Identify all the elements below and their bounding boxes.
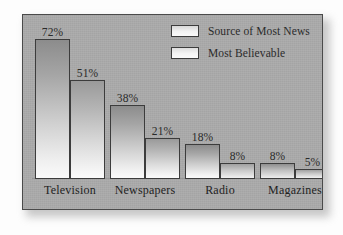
chart-plate: Source of Most News Most Believable 72% … xyxy=(22,14,323,210)
bar-television-source[interactable] xyxy=(35,39,70,179)
bar-magazines-source[interactable] xyxy=(260,163,295,179)
bar-radio-believable[interactable] xyxy=(220,163,255,179)
chart-figure: Source of Most News Most Believable 72% … xyxy=(0,0,343,235)
bar-group-television: 72% 51% Television xyxy=(35,39,105,179)
bar-value-newspapers-source: 38% xyxy=(117,92,138,104)
bar-value-radio-believable: 8% xyxy=(230,150,246,162)
bar-wrap-newspapers-source[interactable]: 38% xyxy=(110,105,145,179)
x-axis-label-television: Television xyxy=(44,183,96,198)
bar-newspapers-believable[interactable] xyxy=(145,138,180,179)
bar-value-television-believable: 51% xyxy=(77,67,98,79)
bar-group-radio: 18% 8% Radio xyxy=(185,144,255,179)
plot-area: 72% 51% Television 38% 21% xyxy=(32,33,313,179)
x-axis-label-magazines: Magazines xyxy=(268,183,322,198)
bar-wrap-magazines-believable[interactable]: 5% xyxy=(295,169,323,179)
bar-television-believable[interactable] xyxy=(70,80,105,179)
bar-wrap-television-believable[interactable]: 51% xyxy=(70,80,105,179)
bar-wrap-newspapers-believable[interactable]: 21% xyxy=(145,138,180,179)
x-axis-label-radio: Radio xyxy=(205,183,235,198)
bar-group-magazines: 8% 5% Magazines xyxy=(260,163,323,179)
bar-magazines-believable[interactable] xyxy=(295,169,323,179)
bar-wrap-radio-source[interactable]: 18% xyxy=(185,144,220,179)
bar-value-radio-source: 18% xyxy=(192,131,213,143)
bar-value-magazines-believable: 5% xyxy=(305,156,321,168)
x-axis-label-newspapers: Newspapers xyxy=(115,183,176,198)
bar-value-newspapers-believable: 21% xyxy=(152,125,173,137)
bar-newspapers-source[interactable] xyxy=(110,105,145,179)
bar-radio-source[interactable] xyxy=(185,144,220,179)
bar-wrap-radio-believable[interactable]: 8% xyxy=(220,163,255,179)
bar-value-magazines-source: 8% xyxy=(270,150,286,162)
bar-wrap-television-source[interactable]: 72% xyxy=(35,39,70,179)
bar-value-television-source: 72% xyxy=(42,26,63,38)
bar-wrap-magazines-source[interactable]: 8% xyxy=(260,163,295,179)
bar-group-newspapers: 38% 21% Newspapers xyxy=(110,105,180,179)
